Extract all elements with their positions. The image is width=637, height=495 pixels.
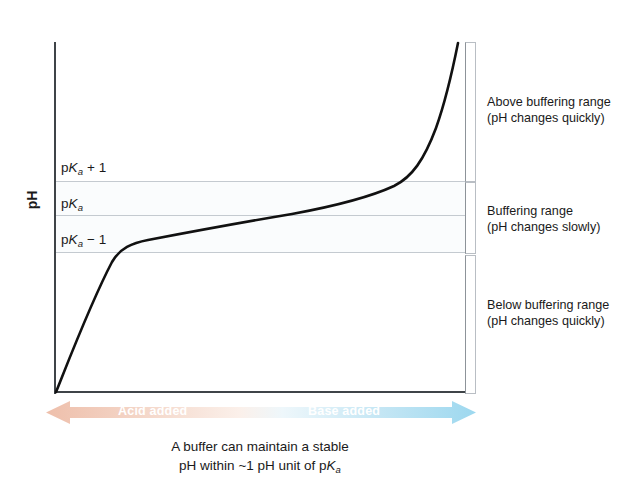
range-label-buffering: Buffering range (pH changes slowly): [487, 203, 633, 235]
range-label-buffering-line2: (pH changes slowly): [487, 220, 600, 234]
caption-line-1: A buffer can maintain a stable: [0, 437, 520, 456]
range-label-above-line1: Above buffering range: [487, 95, 611, 109]
caption-italic-k: K: [327, 458, 336, 473]
caption-line-2: pH within ~1 pH unit of pKa: [0, 456, 520, 476]
acid-added-label: Acid added: [118, 404, 187, 418]
bracket-below-buffering-range: [465, 255, 476, 394]
caption-line-2-text: pH within ~1 pH unit of p: [179, 458, 326, 473]
bracket-buffering-range: [465, 182, 476, 254]
y-axis-line: [54, 42, 56, 394]
caption-subscript-a: a: [336, 464, 341, 475]
y-tick-label-pka-plus-1: pKa + 1: [61, 160, 106, 176]
range-label-above-line2: (pH changes quickly): [487, 111, 605, 125]
range-label-below-line1: Below buffering range: [487, 298, 609, 312]
gridline-pka-minus-1: [55, 252, 466, 253]
y-tick-label-pka: pKa: [61, 196, 83, 212]
range-label-below-line2: (pH changes quickly): [487, 314, 605, 328]
acid-base-axis-arrow: Acid added Base added: [46, 399, 476, 426]
x-axis-line: [54, 391, 466, 393]
arrow-shape: [46, 399, 476, 426]
y-axis-title: pH: [24, 180, 40, 220]
bracket-above-buffering-range: [465, 42, 476, 182]
gridline-pka: [55, 215, 466, 216]
buffering-range-band: [55, 182, 466, 252]
gridline-pka-plus-1: [55, 181, 466, 182]
range-label-above: Above buffering range (pH changes quickl…: [487, 94, 633, 126]
y-tick-label-pka-minus-1: pKa − 1: [61, 232, 106, 248]
buffering-range-figure: pKa + 1 pKa pKa − 1 pH Above buffering r…: [0, 0, 637, 495]
range-label-buffering-line1: Buffering range: [487, 204, 573, 218]
range-label-below: Below buffering range (pH changes quickl…: [487, 297, 633, 329]
base-added-label: Base added: [308, 404, 380, 418]
figure-caption: A buffer can maintain a stable pH within…: [0, 437, 520, 476]
